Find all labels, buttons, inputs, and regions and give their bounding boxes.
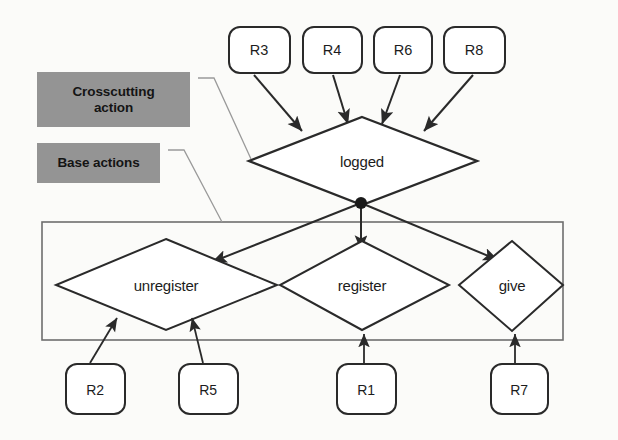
edge-r3-to-logged	[254, 75, 302, 131]
diagram-vector-layer	[0, 0, 618, 440]
node-label-give: give	[499, 277, 526, 294]
diagram-canvas: Crosscutting action Base actions R3 R4 R…	[0, 0, 618, 440]
leader-line-crosscutting	[198, 78, 251, 159]
legend-crosscutting-action: Crosscutting action	[37, 72, 190, 127]
node-label-logged: logged	[340, 153, 384, 170]
fork-junction-dot	[355, 197, 367, 209]
legend-crosscutting-line1: Crosscutting	[72, 84, 154, 100]
requirement-label-r3: R3	[250, 42, 268, 58]
edge-r8-to-logged	[424, 75, 473, 131]
requirement-label-r5: R5	[199, 382, 217, 398]
requirement-label-r7: R7	[510, 382, 528, 398]
edge-r6-to-logged	[382, 75, 400, 124]
legend-base-actions-label: Base actions	[57, 155, 139, 171]
legend-crosscutting-line2: action	[72, 100, 154, 116]
edge-r4-to-logged	[333, 75, 348, 124]
legend-base-actions: Base actions	[37, 143, 160, 183]
requirement-label-r4: R4	[323, 42, 341, 58]
requirement-label-r2: R2	[86, 382, 104, 398]
node-label-unregister: unregister	[134, 277, 199, 294]
requirement-label-r1: R1	[357, 382, 375, 398]
requirement-label-r8: R8	[465, 42, 483, 58]
leader-line-base-actions	[168, 150, 222, 222]
node-label-register: register	[338, 277, 386, 294]
requirement-label-r6: R6	[394, 42, 412, 58]
